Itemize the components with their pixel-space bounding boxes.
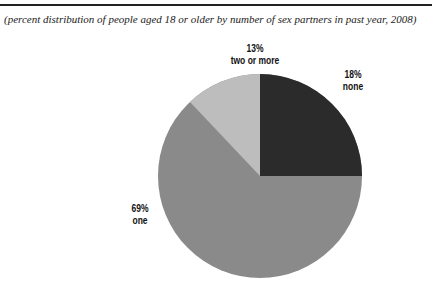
- pie-chart: [0, 0, 432, 283]
- label-none: 18% none: [333, 69, 372, 93]
- label-none-pct: 18%: [333, 69, 372, 81]
- label-two-or-more-pct: 13%: [221, 43, 289, 55]
- label-none-name: none: [333, 81, 372, 93]
- label-two-or-more-name: two or more: [221, 55, 289, 67]
- label-one-name: one: [120, 215, 159, 227]
- label-one: 69% one: [120, 203, 159, 227]
- label-two-or-more: 13% two or more: [221, 43, 289, 67]
- label-one-pct: 69%: [120, 203, 159, 215]
